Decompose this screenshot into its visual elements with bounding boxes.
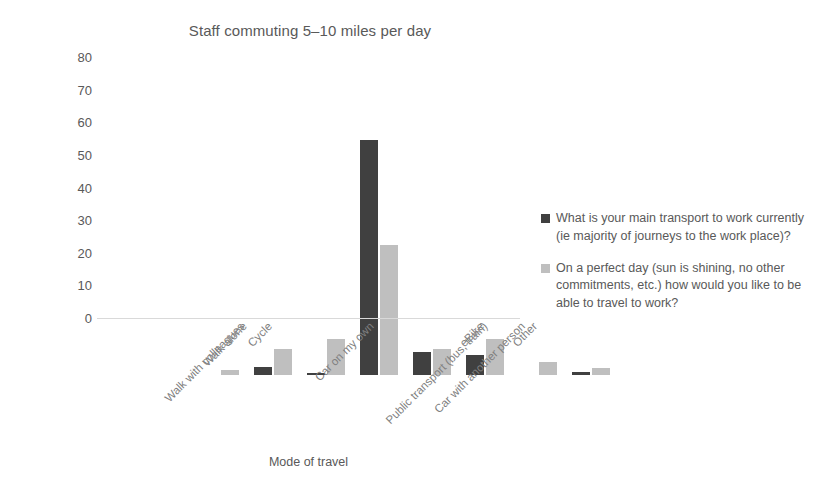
legend-label: On a perfect day (sun is shining, no oth…: [556, 260, 816, 313]
bar-chart: Staff commuting 5–10 miles per day Numbe…: [0, 0, 826, 501]
chart-title: Staff commuting 5–10 miles per day: [0, 22, 620, 39]
legend-label: What is your main transport to work curr…: [556, 210, 816, 246]
y-axis-tick-labels: 01020304050607080: [60, 0, 92, 501]
legend-swatch-icon: [541, 264, 550, 273]
y-axis-tick-label: 10: [78, 279, 92, 292]
legend-swatch-icon: [541, 214, 550, 223]
y-axis-tick-label: 0: [85, 312, 92, 325]
x-axis-category-label: Walk alone: [201, 320, 249, 368]
bar-preferred[interactable]: [592, 368, 610, 375]
y-axis-tick-label: 60: [78, 116, 92, 129]
bar-current[interactable]: [572, 372, 590, 375]
y-axis-tick-label: 40: [78, 181, 92, 194]
y-axis-tick-label: 30: [78, 214, 92, 227]
y-axis-tick-label: 50: [78, 148, 92, 161]
x-axis-category-label: Cycle: [246, 320, 275, 349]
x-axis-category-labels: Walk with colleaguesWalk aloneCycleCar o…: [97, 320, 520, 450]
legend-item[interactable]: On a perfect day (sun is shining, no oth…: [541, 260, 816, 313]
x-axis-line: [97, 318, 520, 319]
x-axis-title: Mode of travel: [97, 455, 520, 469]
legend-item[interactable]: What is your main transport to work curr…: [541, 210, 816, 246]
y-axis-tick-label: 80: [78, 51, 92, 64]
bar-preferred[interactable]: [539, 362, 557, 375]
x-axis-category-label: Car on my own: [313, 320, 376, 383]
plot-area: [97, 57, 520, 318]
chart-legend: What is your main transport to work curr…: [541, 210, 816, 327]
y-axis-tick-label: 70: [78, 83, 92, 96]
y-axis-tick-label: 20: [78, 246, 92, 259]
